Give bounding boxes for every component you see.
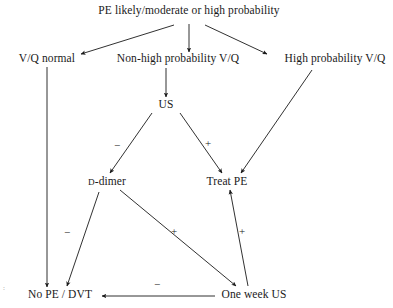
node-root-label: PE likely/moderate or high probability: [98, 5, 279, 17]
node-high-probability-vq: High probability V/Q: [285, 53, 386, 65]
node-d-dimer-suffix: -dimer: [95, 175, 126, 187]
edge-ddimer-to-oneweek: [120, 190, 236, 286]
edge-oneweek-to-treatpe: [230, 190, 248, 286]
edge-root-to-highprob: [205, 25, 267, 54]
node-d-dimer-prefix: D: [88, 177, 95, 187]
edge-ddimer-to-nope: [67, 192, 99, 286]
node-no-pe-dvt: No PE / DVT: [28, 289, 92, 301]
edge-label-us-to-ddimer: −: [114, 140, 120, 151]
node-non-high-probability-vq: Non-high probability V/Q: [117, 53, 239, 65]
node-vq-normal: V/Q normal: [19, 53, 75, 65]
edge-root-to-vq-normal: [81, 25, 174, 54]
edge-label-ddimer-to-oneweek: +: [171, 226, 177, 237]
node-treat-pe: Treat PE: [207, 176, 248, 188]
edge-label-oneweek-to-nope: −: [154, 279, 160, 290]
edge-label-ddimer-to-nope: −: [64, 227, 70, 238]
edge-label-us-to-treatpe: +: [205, 138, 211, 149]
edge-label-oneweek-to-treatpe: +: [239, 226, 245, 237]
scan-artifact-mark: :: [3, 285, 5, 292]
pe-algorithm-flowchart: PE likely/moderate or high probability V…: [0, 0, 393, 308]
edge-highprob-to-treatpe: [241, 70, 312, 173]
edge-us-to-treatpe: [180, 113, 222, 173]
node-us: US: [159, 99, 174, 111]
node-one-week-us: One week US: [222, 289, 287, 301]
node-d-dimer: D-dimer: [88, 176, 126, 188]
flowchart-edges: [0, 0, 393, 308]
